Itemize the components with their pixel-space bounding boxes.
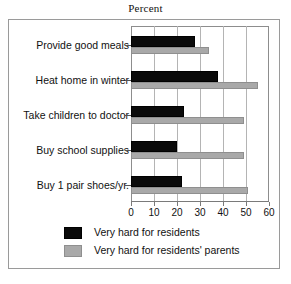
- legend-swatch-dark: [64, 227, 82, 239]
- bar-group: [131, 71, 269, 89]
- chart-root: Percent 0102030405060 Provide good meals…: [0, 0, 291, 284]
- bar-dark: [131, 106, 184, 117]
- tick-label-10: 10: [142, 207, 166, 219]
- category-label: Buy school supplies: [9, 144, 129, 156]
- legend-label-residents: Very hard for residents: [94, 226, 200, 238]
- category-label: Provide good meals: [9, 39, 129, 51]
- tick-10: [154, 202, 155, 206]
- tick-40: [223, 202, 224, 206]
- category-label: Heat home in winter: [9, 74, 129, 86]
- bar-group: [131, 36, 269, 54]
- tick-30: [200, 202, 201, 206]
- bar-light: [131, 117, 244, 124]
- tick-label-50: 50: [234, 207, 258, 219]
- bar-group: [131, 106, 269, 124]
- tick-label-40: 40: [211, 207, 235, 219]
- bar-dark: [131, 176, 182, 187]
- bar-light: [131, 187, 248, 194]
- tick-label-0: 0: [119, 207, 143, 219]
- bar-light: [131, 47, 209, 54]
- plot-area: 0102030405060: [131, 26, 269, 201]
- tick-label-60: 60: [257, 207, 281, 219]
- category-tick: [125, 45, 131, 46]
- bar-dark: [131, 141, 177, 152]
- tick-label-20: 20: [165, 207, 189, 219]
- category-label: Take children to doctor: [9, 109, 129, 121]
- category-label: Buy 1 pair shoes/yr.: [9, 179, 129, 191]
- tick-50: [246, 202, 247, 206]
- category-tick: [125, 80, 131, 81]
- bar-dark: [131, 36, 195, 47]
- legend-label-parents: Very hard for residents' parents: [94, 244, 240, 256]
- tick-0: [131, 202, 132, 206]
- bar-group: [131, 141, 269, 159]
- legend-swatch-light: [64, 245, 82, 257]
- category-tick: [125, 115, 131, 116]
- category-tick: [125, 150, 131, 151]
- category-tick: [125, 185, 131, 186]
- tick-20: [177, 202, 178, 206]
- chart-frame: 0102030405060 Provide good mealsHeat hom…: [8, 19, 280, 269]
- bar-light: [131, 82, 258, 89]
- tick-60: [269, 202, 270, 206]
- bar-group: [131, 176, 269, 194]
- tick-label-30: 30: [188, 207, 212, 219]
- chart-title: Percent: [0, 2, 291, 14]
- bar-dark: [131, 71, 218, 82]
- bar-light: [131, 152, 244, 159]
